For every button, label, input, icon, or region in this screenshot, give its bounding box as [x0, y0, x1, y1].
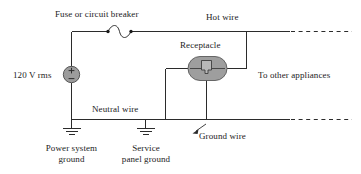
power-system-ground-label-line1: Power system	[29, 143, 114, 154]
arrow-icon	[193, 129, 199, 134]
service-panel-ground-label-line1: Service	[110, 143, 182, 154]
fuse-terminal-left	[106, 30, 109, 33]
service-panel-ground-label: Service panel ground	[110, 143, 182, 164]
fuse-terminal-right	[129, 30, 132, 33]
fuse-label: Fuse or circuit breaker	[55, 9, 139, 20]
fuse-arc-curve	[108, 26, 131, 38]
power-system-ground-label: Power system ground	[29, 143, 114, 164]
receptacle-label: Receptacle	[180, 40, 220, 51]
ground-wire-label: Ground wire	[199, 131, 246, 142]
to-other-appliances-label: To other appliances	[258, 70, 330, 81]
source-voltage-label: 120 V rms	[13, 70, 52, 81]
neutral-wire-label: Neutral wire	[92, 104, 138, 115]
hot-wire-label: Hot wire	[206, 12, 239, 23]
ac-voltage-source-icon	[63, 66, 79, 119]
service-panel-ground-label-line2: panel ground	[110, 154, 182, 165]
power-system-ground-label-line2: ground	[29, 154, 114, 165]
circuit-diagram: Fuse or circuit breaker Hot wire Recepta…	[0, 0, 361, 174]
service-panel-ground-icon	[137, 120, 155, 135]
fuse-icon	[106, 26, 132, 38]
power-system-ground-icon	[63, 120, 81, 135]
receptacle-icon	[188, 57, 227, 81]
